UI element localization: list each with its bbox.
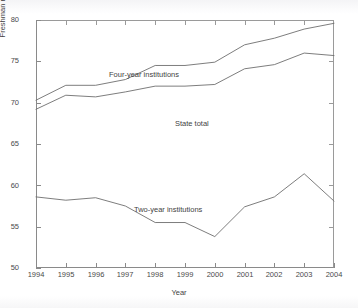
x-tick-label: 1996	[81, 271, 111, 279]
y-tick-label: 55	[11, 223, 19, 231]
y-tick	[36, 268, 41, 269]
series-line-state-total	[36, 53, 334, 109]
x-tick-label: 1997	[110, 271, 140, 279]
y-tick-label: 65	[11, 140, 19, 148]
x-tick-label: 2003	[289, 271, 319, 279]
y-axis-title: Freshman retention (%)	[0, 0, 7, 78]
x-tick-label: 2004	[319, 271, 349, 279]
chart-figure: Freshman retention (%) 80 75 70 65 60 55…	[0, 0, 358, 308]
x-tick-label: 1994	[21, 271, 51, 279]
x-tick	[334, 263, 335, 268]
scan-tint-top	[0, 0, 358, 14]
x-tick-label: 1995	[51, 271, 81, 279]
x-tick-label: 2002	[259, 271, 289, 279]
y-tick-label: 50	[11, 264, 19, 272]
x-tick-label: 1999	[170, 271, 200, 279]
x-tick-label: 2001	[230, 271, 260, 279]
series-label-two-year-institutions: Two-year institutions	[134, 205, 202, 214]
plot-area: Four-year institutions State total Two-y…	[36, 20, 334, 268]
y-tick-label: 75	[11, 57, 19, 65]
x-tick-label: 2000	[200, 271, 230, 279]
series-label-state-total: State total	[175, 119, 209, 128]
x-tick-label: 1998	[140, 271, 170, 279]
series-line-four-year-institutions	[36, 23, 334, 100]
x-axis-title: Year	[0, 288, 358, 297]
series-label-four-year-institutions: Four-year institutions	[109, 70, 179, 79]
y-tick-label: 60	[11, 182, 19, 190]
y-tick-label: 70	[11, 99, 19, 107]
scan-tint-bottom	[0, 296, 358, 308]
series-lines-layer	[36, 20, 334, 268]
y-tick-label: 80	[11, 16, 19, 24]
